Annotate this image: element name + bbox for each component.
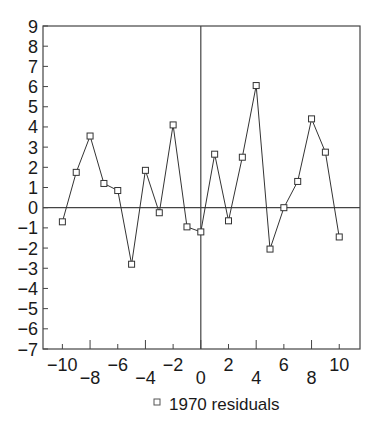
data-point-square-marker [170,122,176,128]
x-tick-label: 10 [329,355,349,375]
x-tick-label: 8 [307,368,317,388]
data-point-square-marker [322,149,328,155]
data-point-square-marker [156,210,162,216]
data-point-square-marker [336,234,342,240]
data-point-square-marker [184,224,190,230]
x-tick-label: −2 [163,355,184,375]
y-tick-label: −1 [17,218,38,238]
plot-frame [43,26,360,349]
y-tick-label: 7 [28,57,38,77]
y-tick-label: 5 [28,97,38,117]
data-point-square-marker [59,219,65,225]
y-tick-label: −7 [17,340,38,360]
x-tick-label: 6 [279,355,289,375]
y-tick-label: 1 [28,178,38,198]
zero-lines [43,26,360,349]
x-axis: −10−8−6−4−20246810 [47,340,349,388]
residuals-chart: 9876543210−1−2−3−4−5−6−7 −10−8−6−4−20246… [0,0,379,430]
x-tick-label: 4 [251,368,261,388]
y-tick-label: 4 [28,117,38,137]
legend: 1970 residuals [154,395,280,414]
x-tick-label: 0 [196,368,206,388]
x-tick-label: −10 [47,355,78,375]
data-point-square-marker [309,116,315,122]
x-tick-label: 2 [223,355,233,375]
data-point-square-marker [87,133,93,139]
x-tick-label: −4 [135,368,156,388]
data-point-square-marker [225,218,231,224]
legend-label: 1970 residuals [169,395,280,414]
y-tick-label: 6 [28,77,38,97]
x-tick-label: −8 [80,368,101,388]
data-point-square-marker [212,151,218,157]
data-point-square-marker [281,205,287,211]
y-tick-label: 2 [28,158,38,178]
y-tick-label: 0 [28,198,38,218]
plot-border [43,26,360,349]
y-tick-label: −2 [17,239,38,259]
y-tick-label: 8 [28,37,38,57]
data-point-square-marker [129,261,135,267]
y-tick-label: −5 [17,299,38,319]
data-point-square-marker [239,154,245,160]
data-point-square-marker [267,246,273,252]
data-point-square-marker [73,169,79,175]
y-tick-label: 9 [28,17,38,37]
data-point-square-marker [142,167,148,173]
legend-marker-square-icon [154,399,160,405]
data-point-square-marker [253,83,259,89]
y-tick-label: −3 [17,259,38,279]
y-tick-label: −4 [17,279,38,299]
y-tick-label: 3 [28,138,38,158]
y-tick-label: −6 [17,319,38,339]
data-point-square-marker [115,188,121,194]
x-tick-label: −6 [107,355,128,375]
data-point-square-marker [198,229,204,235]
data-point-square-marker [101,180,107,186]
data-point-square-marker [295,178,301,184]
